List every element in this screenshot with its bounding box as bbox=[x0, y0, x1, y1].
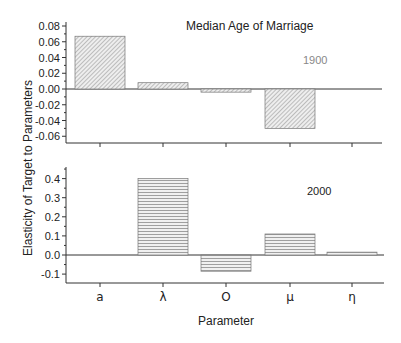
chart-title: Median Age of Marriage bbox=[186, 19, 314, 33]
y-tick-label: 0.1 bbox=[45, 230, 60, 242]
bar-μ bbox=[265, 89, 315, 128]
bottom-panel-2000: 0.40.30.20.10.0-0.1 bbox=[41, 167, 384, 287]
y-tick-label: 0.3 bbox=[45, 192, 60, 204]
x-axis-title: Parameter bbox=[198, 314, 254, 328]
y-tick-label: 0.02 bbox=[39, 67, 60, 79]
y-tick-label: -0.06 bbox=[35, 130, 60, 142]
bar-λ bbox=[138, 83, 188, 89]
y-tick-label: 0.4 bbox=[45, 173, 60, 185]
x-tick-label: η bbox=[348, 290, 356, 304]
y-tick-label: 0.04 bbox=[39, 52, 60, 64]
y-tick-label: -0.04 bbox=[35, 115, 60, 127]
y-tick-label: 0.0 bbox=[45, 249, 60, 261]
y-tick-label: -0.02 bbox=[35, 99, 60, 111]
x-tick-label: λ bbox=[159, 290, 166, 304]
y-tick-label: 0.08 bbox=[39, 20, 60, 32]
year-label-1900: 1900 bbox=[303, 54, 327, 66]
year-label-2000: 2000 bbox=[307, 185, 331, 197]
y-tick-label: 0.06 bbox=[39, 36, 60, 48]
y-axis-title: Elasticity of Target to Parameters bbox=[21, 80, 35, 256]
bar-λ bbox=[138, 179, 188, 255]
bar-μ bbox=[265, 234, 315, 255]
bar-O bbox=[201, 89, 251, 92]
top-panel-1900: 0.080.060.040.020.00-0.02-0.04-0.06 bbox=[35, 20, 382, 147]
x-tick-label: a bbox=[96, 290, 103, 304]
x-tick-label: O bbox=[221, 290, 230, 304]
elasticity-chart: Median Age of Marriage 1900 2000 Elastic… bbox=[0, 0, 401, 343]
y-tick-label: 0.2 bbox=[45, 211, 60, 223]
bar-η bbox=[327, 252, 377, 255]
bar-O bbox=[201, 255, 251, 271]
y-tick-label: -0.1 bbox=[41, 268, 60, 280]
bar-a bbox=[75, 36, 125, 89]
y-tick-label: 0.00 bbox=[39, 83, 60, 95]
x-tick-label: μ bbox=[286, 290, 294, 304]
